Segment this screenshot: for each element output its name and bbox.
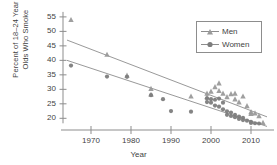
data-point-women	[213, 98, 217, 102]
x-tick-label: 1980	[116, 137, 146, 145]
data-point-women	[189, 110, 193, 114]
data-point-women	[205, 100, 209, 104]
data-point-women	[229, 114, 233, 118]
legend-item-men: Men	[201, 25, 238, 37]
legend-label-men: Men	[222, 27, 238, 36]
data-point-men	[188, 93, 193, 98]
data-point-men	[260, 120, 265, 125]
legend: Men Women	[196, 21, 262, 53]
y-tick-label: 25	[38, 100, 56, 108]
data-point-women	[209, 101, 213, 105]
data-point-men	[244, 103, 249, 108]
y-tick-label: 45	[38, 42, 56, 50]
y-tick-label: 55	[38, 13, 56, 21]
data-point-men	[216, 80, 221, 85]
data-point-men	[240, 93, 245, 98]
x-axis-title: Year	[0, 150, 277, 159]
data-point-women	[217, 97, 221, 101]
x-tick-label: 1970	[76, 137, 106, 145]
x-tick-label: 2000	[196, 137, 226, 145]
data-point-men	[220, 90, 225, 95]
data-point-women	[105, 74, 109, 78]
legend-marker-circle-icon	[201, 40, 219, 49]
data-point-women	[249, 121, 253, 125]
y-tick-label: 40	[38, 56, 56, 64]
legend-label-women: Women	[222, 40, 249, 49]
data-point-women	[125, 75, 129, 79]
y-tick-label: 50	[38, 27, 56, 35]
legend-item-women: Women	[201, 38, 249, 50]
data-point-women	[257, 121, 261, 125]
data-point-men	[232, 90, 237, 95]
data-point-men	[256, 113, 261, 118]
data-point-women	[237, 117, 241, 121]
data-point-women	[233, 115, 237, 119]
data-point-women	[161, 97, 165, 101]
data-point-women	[225, 113, 229, 117]
data-point-women	[253, 121, 257, 125]
data-point-men	[236, 99, 241, 104]
data-point-women	[221, 107, 225, 111]
y-tick-label: 35	[38, 71, 56, 79]
x-tick-label: 2010	[236, 137, 266, 145]
legend-marker-triangle-icon	[201, 27, 219, 36]
x-tick-label: 1990	[156, 137, 186, 145]
y-tick-label: 30	[38, 85, 56, 93]
data-point-women	[69, 63, 73, 67]
data-point-women	[213, 103, 217, 107]
data-point-men	[232, 96, 237, 101]
y-tick-label: 20	[38, 114, 56, 122]
data-point-men	[68, 17, 73, 22]
data-point-women	[241, 118, 245, 122]
data-point-women	[149, 93, 153, 97]
data-point-women	[169, 109, 173, 113]
data-point-women	[245, 119, 249, 123]
smoking-trend-chart: Percent of 18–24 Year Olds Who Smoke 202…	[0, 0, 277, 165]
data-point-women	[217, 105, 221, 109]
data-point-women	[221, 101, 225, 105]
